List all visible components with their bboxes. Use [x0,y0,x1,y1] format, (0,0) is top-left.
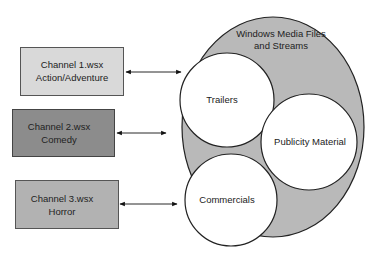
trailers-circle: Trailers [180,53,274,147]
publicity-material-label: Publicity Material [274,136,346,147]
channel-2-box: Channel 2.wsx Comedy [13,110,115,157]
container-label-line2: and Streams [254,40,308,51]
channel-2-genre: Comedy [41,134,77,145]
channel-1-name: Channel 1.wsx [41,59,104,70]
channel-3-genre: Horror [49,206,76,217]
commercials-label: Commercials [199,194,255,205]
channel-3-name: Channel 3.wsx [31,193,94,204]
container-label-line1: Windows Media Files [236,28,326,39]
trailers-label: Trailers [206,94,238,105]
media-diagram: Windows Media Files and Streams Trailers… [0,0,371,279]
channel-1-box: Channel 1.wsx Action/Adventure [21,48,124,96]
channel-1-genre: Action/Adventure [36,72,108,83]
channel-3-box: Channel 3.wsx Horror [16,181,119,229]
channel-2-name: Channel 2.wsx [28,121,91,132]
commercials-circle: Commercials [185,154,277,246]
publicity-material-circle: Publicity Material [261,94,357,190]
